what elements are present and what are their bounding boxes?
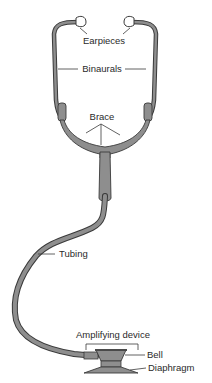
label-binaurals: Binaurals	[82, 63, 122, 74]
left-binaural	[54, 22, 78, 118]
right-binaural	[132, 22, 156, 118]
label-amplifying-device: Amplifying device	[76, 329, 150, 340]
diaphragm	[84, 367, 138, 373]
stethoscope-diagram: Earpieces Binaurals Brace Tubing Amplify…	[0, 0, 212, 383]
chest-piece	[84, 349, 138, 373]
earpiece-right-icon	[124, 16, 134, 26]
bell	[96, 350, 126, 361]
label-tubing: Tubing	[59, 248, 88, 259]
earpiece-left-icon	[76, 16, 86, 26]
label-bell: Bell	[147, 349, 163, 360]
label-diaphragm: Diaphragm	[148, 362, 195, 373]
label-brace: Brace	[90, 111, 115, 122]
label-earpieces: Earpieces	[83, 35, 125, 46]
